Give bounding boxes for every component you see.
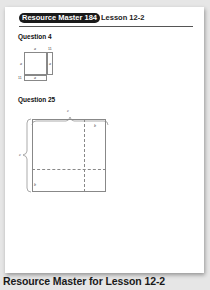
horizontal-dashed-line bbox=[32, 169, 106, 170]
square-c bbox=[32, 119, 106, 192]
caption: Resource Master for Lesson 12-2 bbox=[3, 275, 165, 287]
vertical-dashed-line bbox=[84, 119, 85, 192]
label-b-inner-top-right: b bbox=[94, 124, 96, 128]
label-c-left: c bbox=[19, 153, 21, 157]
label-b-inner-bottom-left: b bbox=[34, 183, 36, 187]
resource-master-page: Resource Master 184 Lesson 12-2 Question… bbox=[5, 7, 204, 273]
label-c-top: c bbox=[67, 109, 69, 113]
